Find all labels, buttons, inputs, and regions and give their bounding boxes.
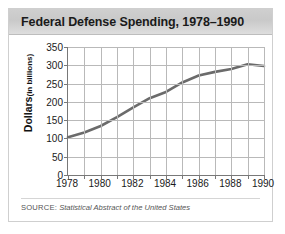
source-label: SOURCE:	[21, 203, 57, 212]
gridline-vertical	[248, 47, 249, 175]
chart-area: Dollars(in billions) 0501001502002503003…	[9, 35, 272, 195]
x-axis-tick-label: 1984	[154, 178, 176, 189]
x-axis-tick-label: 1978	[56, 178, 78, 189]
gridline-vertical	[166, 47, 167, 175]
x-axis-tick-labels: 1978198019821984198619881990	[67, 178, 263, 194]
y-axis-tick-label: 100	[46, 133, 63, 144]
page-title: Federal Defense Spending, 1978–1990	[9, 15, 244, 29]
y-axis-tick	[64, 157, 68, 158]
y-axis-tick	[64, 102, 68, 103]
y-axis-tick	[64, 138, 68, 139]
y-axis-tick-label: 50	[52, 151, 63, 162]
gridline-vertical	[182, 47, 183, 175]
source-note: SOURCE: Statistical Abstract of the Unit…	[21, 203, 190, 212]
gridline-vertical	[101, 47, 102, 175]
y-axis-title-sub: (in billions)	[25, 54, 34, 97]
y-axis-tick	[64, 47, 68, 48]
y-axis-title: Dollars(in billions)	[22, 38, 34, 148]
y-axis-tick-label: 150	[46, 115, 63, 126]
chart-figure: Federal Defense Spending, 1978–1990 Doll…	[8, 8, 273, 222]
x-axis-tick-label: 1982	[121, 178, 143, 189]
y-axis-title-main: Dollars	[22, 97, 34, 133]
y-axis-tick-label: 350	[46, 42, 63, 53]
y-axis-tick-labels: 050100150200250300350	[35, 47, 63, 175]
gridline-vertical	[117, 47, 118, 175]
y-axis-tick-label: 250	[46, 78, 63, 89]
source-divider	[21, 198, 260, 199]
chart-title-bar: Federal Defense Spending, 1978–1990	[9, 9, 272, 35]
x-axis-tick-label: 1990	[252, 178, 274, 189]
y-axis-tick-label: 200	[46, 96, 63, 107]
y-axis-tick	[64, 84, 68, 85]
y-axis-tick-label: 300	[46, 60, 63, 71]
x-axis-tick-label: 1988	[219, 178, 241, 189]
gridline-vertical	[264, 47, 265, 175]
x-axis-tick-label: 1980	[89, 178, 111, 189]
gridline-vertical	[133, 47, 134, 175]
y-axis-tick	[64, 65, 68, 66]
y-axis-tick	[64, 120, 68, 121]
plot-area	[67, 47, 264, 176]
gridline-vertical	[199, 47, 200, 175]
x-axis-tick-label: 1986	[187, 178, 209, 189]
source-title: Statistical Abstract of the United State…	[59, 203, 190, 212]
gridline-vertical	[231, 47, 232, 175]
gridline-vertical	[84, 47, 85, 175]
gridline-vertical	[150, 47, 151, 175]
gridline-vertical	[215, 47, 216, 175]
